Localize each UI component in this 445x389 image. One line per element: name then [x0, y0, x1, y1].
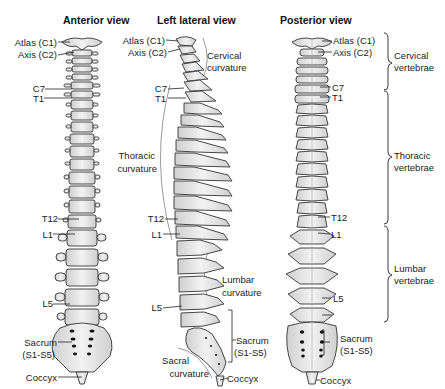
- lateral-view-title: Left lateral view: [157, 14, 236, 26]
- posterior-t12-label: T12: [331, 212, 347, 223]
- lateral-l1-label: L1: [151, 229, 162, 240]
- lumbar-vertebrae-label-1: Lumbar: [394, 263, 426, 274]
- lumbar-curvature-label-1: Lumbar: [222, 274, 254, 285]
- cervical-vertebrae-label-2: vertebrae: [394, 62, 434, 73]
- lateral-t1-label: T1: [155, 93, 166, 104]
- posterior-l5-label: L5: [333, 293, 344, 304]
- sacral-curvature-label-2: curvature: [169, 368, 209, 379]
- anterior-view-title: Anterior view: [63, 14, 130, 26]
- thoracic-vertebrae-label-2: vertebrae: [394, 162, 434, 173]
- posterior-sacrum-label: Sacrum: [340, 333, 373, 344]
- posterior-axis-label: Axis (C2): [333, 47, 372, 58]
- posterior-sacrum-range-label: (S1-S5): [340, 345, 373, 356]
- lateral-sacrum-range-label: (S1-S5): [234, 347, 267, 358]
- thoracic-curvature-label-2: curvature: [117, 163, 157, 174]
- lateral-spine: [174, 37, 232, 386]
- lateral-atlas-label: Atlas (C1): [123, 35, 165, 46]
- anterior-coccyx-label: Coccyx: [26, 372, 57, 383]
- anterior-t1-label: T1: [33, 93, 44, 104]
- lateral-coccyx-label: Coccyx: [227, 373, 258, 384]
- lateral-t12-label: T12: [148, 213, 164, 224]
- anterior-l1-label: L1: [42, 229, 53, 240]
- lumbar-vertebrae-label-2: vertebrae: [394, 275, 434, 286]
- lateral-axis-label: Axis (C2): [128, 47, 167, 58]
- anterior-sacrum-label: Sacrum: [24, 337, 57, 348]
- lateral-l5-label: L5: [151, 302, 162, 313]
- anterior-l5-label: L5: [42, 298, 53, 309]
- region-braces: [384, 33, 392, 322]
- cervical-curvature-label-1: Cervical: [207, 50, 241, 61]
- lateral-sacrum-label: Sacrum: [236, 335, 269, 346]
- posterior-coccyx-label: Coccyx: [320, 375, 351, 386]
- lumbar-curvature-label-2: curvature: [222, 287, 262, 298]
- thoracic-vertebrae-label-1: Thoracic: [394, 150, 430, 161]
- posterior-spine: [286, 38, 338, 384]
- posterior-l1-label: L1: [331, 229, 342, 240]
- sacral-curvature-label-1: Sacral: [162, 355, 189, 366]
- posterior-view-title: Posterior view: [280, 14, 352, 26]
- anterior-spine: [52, 38, 112, 384]
- anterior-axis-label: Axis (C2): [18, 49, 57, 60]
- posterior-atlas-label: Atlas (C1): [333, 35, 375, 46]
- anterior-atlas-label: Atlas (C1): [15, 37, 57, 48]
- cervical-curvature-label-2: curvature: [207, 62, 247, 73]
- cervical-vertebrae-label-1: Cervical: [394, 50, 428, 61]
- posterior-t1-label: T1: [332, 92, 343, 103]
- anterior-t12-label: T12: [42, 213, 58, 224]
- thoracic-curvature-label-1: Thoracic: [119, 150, 155, 161]
- anterior-sacrum-range-label: (S1-S5): [22, 349, 55, 360]
